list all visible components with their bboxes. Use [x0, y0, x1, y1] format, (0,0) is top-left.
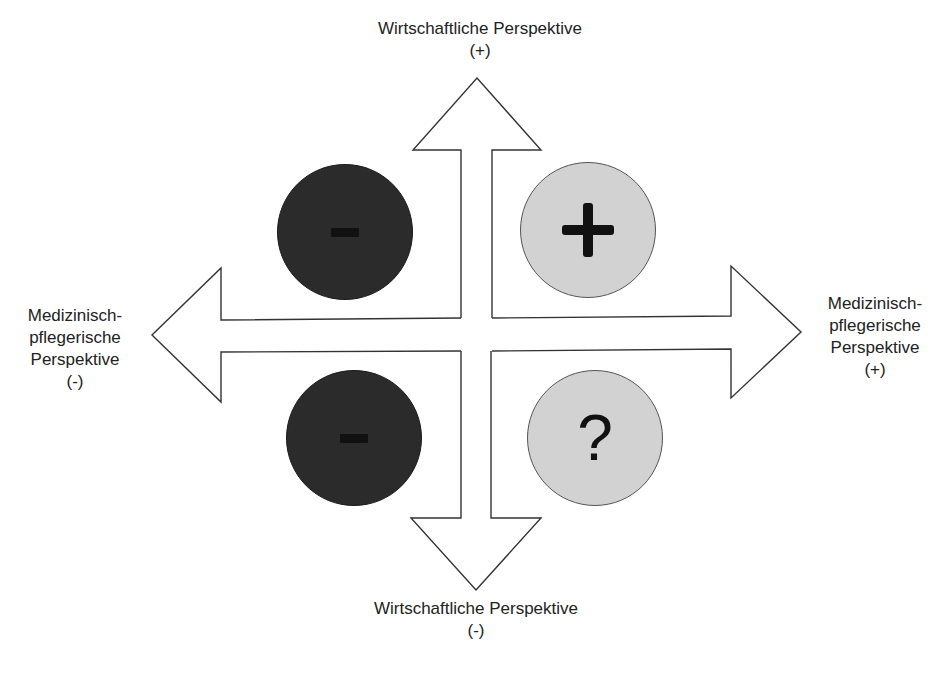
axis-label-right-line1: Medizinisch-: [800, 293, 950, 315]
axis-label-left-line1: Medizinisch-: [0, 305, 150, 327]
axis-label-bottom-sign: (-): [326, 620, 626, 642]
axis-label-top: Wirtschaftliche Perspektive (+): [330, 18, 630, 62]
quadrant-top-left-circle: [277, 164, 413, 300]
minus-icon: [340, 434, 368, 443]
axis-label-bottom: Wirtschaftliche Perspektive (-): [326, 598, 626, 642]
axis-label-top-title: Wirtschaftliche Perspektive: [330, 18, 630, 40]
arrow-right: [492, 266, 801, 398]
axis-label-right-line2: pflegerische: [800, 315, 950, 337]
axis-label-left-sign: (-): [0, 371, 150, 393]
quadrant-top-right-circle: [520, 162, 656, 298]
quadrant-bottom-left-circle: [286, 370, 422, 506]
axis-label-right: Medizinisch- pflegerische Perspektive (+…: [800, 293, 950, 381]
axis-label-left-line2: pflegerische: [0, 327, 150, 349]
minus-icon: [331, 228, 359, 237]
axis-label-right-sign: (+): [800, 359, 950, 381]
axis-label-right-line3: Perspektive: [800, 337, 950, 359]
quadrant-bottom-right-circle: ?: [527, 370, 663, 506]
plus-icon: [562, 203, 614, 257]
question-icon: ?: [577, 406, 613, 470]
arrow-down: [411, 351, 541, 590]
axis-label-left: Medizinisch- pflegerische Perspektive (-…: [0, 305, 150, 393]
axis-label-left-line3: Perspektive: [0, 349, 150, 371]
axis-label-bottom-title: Wirtschaftliche Perspektive: [326, 598, 626, 620]
axis-label-top-sign: (+): [330, 40, 630, 62]
arrow-up: [413, 78, 541, 318]
